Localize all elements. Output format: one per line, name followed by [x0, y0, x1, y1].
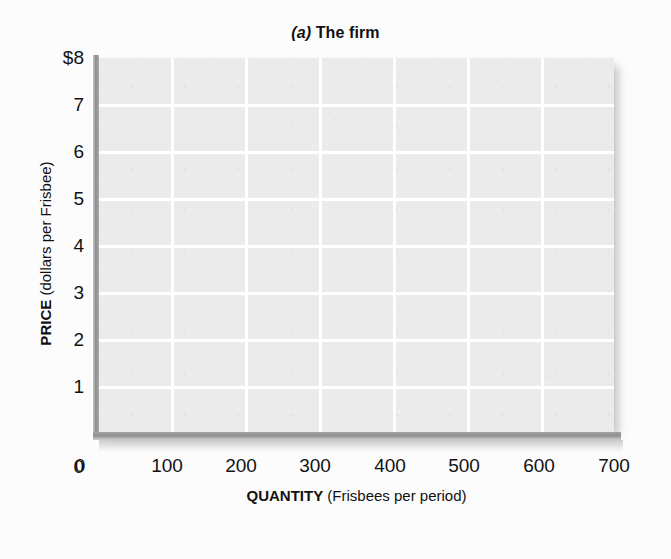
gridline-vertical-600 — [541, 58, 544, 432]
y-axis-title: PRICE (dollars per Frisbee) — [37, 94, 54, 414]
gridline-vertical-300 — [319, 58, 322, 432]
gridline-horizontal-2 — [99, 339, 614, 342]
y-axis-title-strong: PRICE — [37, 300, 54, 346]
y-tick-3: 3 — [24, 282, 84, 304]
gridline-horizontal-5 — [99, 198, 614, 201]
y-tick-2: 2 — [24, 329, 84, 351]
gridline-vertical-500 — [467, 58, 470, 432]
chart-title-text: The firm — [311, 24, 379, 41]
gridline-horizontal-7 — [99, 104, 614, 107]
y-tick-5: 5 — [24, 188, 84, 210]
gridline-horizontal-6 — [99, 151, 614, 154]
axis-drop-shadow — [99, 440, 623, 452]
y-tick-8: $8 — [24, 47, 84, 69]
gridline-vertical-400 — [393, 58, 396, 432]
y-tick-4: 4 — [24, 235, 84, 257]
plot-area — [99, 58, 614, 432]
x-tick-700: 700 — [569, 455, 659, 477]
chart-title: (a) The firm — [0, 24, 671, 42]
x-axis-line — [93, 432, 621, 440]
x-axis-title-units: (Frisbees per period) — [323, 487, 466, 504]
chart-figure: (a) The firm $8 7 6 5 4 3 2 1 0 0 — [0, 0, 671, 559]
y-tick-7: 7 — [24, 94, 84, 116]
y-axis-line — [93, 55, 99, 440]
gridline-horizontal-1 — [99, 386, 614, 389]
gridline-horizontal-3 — [99, 292, 614, 295]
y-tick-1: 1 — [24, 376, 84, 398]
x-tick-0: 0 — [35, 455, 125, 477]
x-axis-title: QUANTITY (Frisbees per period) — [99, 487, 614, 504]
y-axis-title-units: (dollars per Frisbee) — [37, 161, 54, 299]
y-tick-6: 6 — [24, 141, 84, 163]
gridline-vertical-200 — [245, 58, 248, 432]
gridline-horizontal-4 — [99, 245, 614, 248]
panel-letter: (a) — [291, 24, 311, 41]
x-axis-title-strong: QUANTITY — [246, 487, 323, 504]
gridline-vertical-100 — [171, 58, 174, 432]
